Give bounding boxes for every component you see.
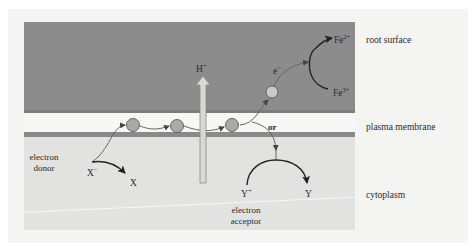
electron-donor-label-1: electron: [30, 152, 59, 162]
plasma-membrane-label: plasma membrane: [366, 122, 435, 132]
y-label: Y: [305, 189, 312, 199]
membrane-carrier-2: [171, 120, 184, 133]
plasma-membrane-band: [24, 113, 355, 133]
membrane-carrier-1: [127, 119, 140, 132]
x-label: X: [130, 178, 137, 188]
root-surface-edge: [24, 110, 355, 113]
cytoplasm-region: [24, 137, 355, 230]
electron-acceptor-label-1: electron: [232, 205, 261, 215]
cytoplasm-label: cytoplasm: [366, 190, 406, 200]
or-label: or: [268, 122, 277, 132]
membrane-carrier-3: [226, 119, 239, 132]
root-surface-region: [24, 22, 355, 113]
electron-acceptor-label-2: acceptor: [231, 216, 261, 226]
outer-carrier: [266, 86, 278, 98]
plasma-membrane-line: [24, 132, 355, 137]
iron-reduction-diagram: electron donor X− X H+ e− Fe2+ Fe3+ or Y…: [0, 0, 476, 251]
root-surface-label: root surface: [366, 35, 411, 45]
electron-donor-label-2: donor: [34, 163, 55, 173]
